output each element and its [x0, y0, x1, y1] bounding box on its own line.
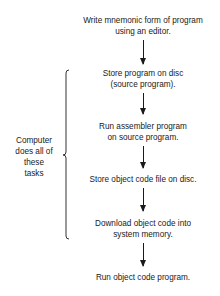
brace-label: Computer does all of these tasks — [8, 135, 60, 179]
brace-label-text: these — [8, 157, 60, 168]
brace-label-text: does all of — [8, 146, 60, 157]
brace-label-text: Computer — [8, 135, 60, 146]
brace-label-text: tasks — [8, 168, 60, 179]
